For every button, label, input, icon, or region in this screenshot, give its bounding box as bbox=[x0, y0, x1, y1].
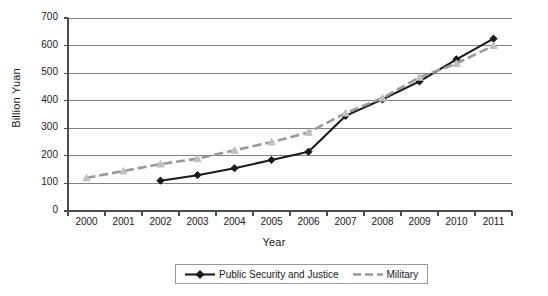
legend-item-1: Public Security and Justice bbox=[185, 269, 339, 280]
legend-swatch-diamond-line-icon bbox=[185, 269, 215, 280]
chart-container: Billion Yuan Year 0100200300400500600700… bbox=[0, 0, 548, 296]
legend-label: Public Security and Justice bbox=[219, 269, 339, 280]
series-line bbox=[87, 46, 494, 178]
data-point-marker bbox=[268, 156, 275, 163]
series-line bbox=[161, 39, 494, 181]
series-2 bbox=[83, 42, 497, 181]
data-point-marker bbox=[194, 172, 201, 179]
legend-label: Military bbox=[387, 269, 419, 280]
chart-legend: Public Security and JusticeMilitary bbox=[175, 264, 428, 284]
plot-area bbox=[0, 0, 548, 296]
series-1 bbox=[157, 35, 497, 184]
legend-item-2: Military bbox=[353, 269, 419, 280]
data-point-marker bbox=[231, 165, 238, 172]
data-point-marker bbox=[342, 110, 349, 117]
legend-swatch-dashed-line-icon bbox=[353, 269, 383, 280]
